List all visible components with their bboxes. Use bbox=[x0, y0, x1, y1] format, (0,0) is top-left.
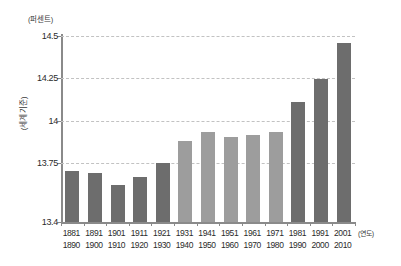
x-axis-tick-mark bbox=[332, 222, 333, 226]
x-axis-tick-label: 18811890 bbox=[60, 227, 83, 251]
x-tick-decade-start: 1921 bbox=[153, 228, 170, 238]
x-tick-decade-start: 1941 bbox=[198, 228, 215, 238]
x-tick-decade-end: 1920 bbox=[128, 239, 151, 251]
x-axis-tick-mark bbox=[61, 222, 62, 226]
x-axis-tick-mark bbox=[219, 222, 220, 226]
y-axis-title: (세계 기준) bbox=[17, 84, 28, 144]
x-axis-tick-mark bbox=[84, 222, 85, 226]
bar-1931-1940[interactable] bbox=[178, 141, 192, 222]
x-axis-tick-label: 19511960 bbox=[218, 227, 241, 251]
x-axis-tick-label: 20012010 bbox=[331, 227, 354, 251]
x-axis-tick-mark bbox=[174, 222, 175, 226]
x-tick-decade-end: 1940 bbox=[173, 239, 196, 251]
x-tick-decade-end: 2010 bbox=[331, 239, 354, 251]
x-tick-decade-end: 1900 bbox=[83, 239, 106, 251]
x-axis-tick-mark bbox=[287, 222, 288, 226]
bar-series bbox=[61, 36, 356, 222]
x-tick-decade-end: 1950 bbox=[196, 239, 219, 251]
x-tick-decade-end: 1910 bbox=[105, 239, 128, 251]
y-axis-tick-label: 14 bbox=[22, 116, 58, 126]
x-axis-tick-mark bbox=[151, 222, 152, 226]
x-axis-tick-mark bbox=[242, 222, 243, 226]
x-tick-decade-start: 1911 bbox=[131, 228, 148, 238]
y-axis-tick-label: 14.5 bbox=[22, 31, 58, 41]
x-axis-tick-mark bbox=[265, 222, 266, 226]
x-axis-tick-label: 19811990 bbox=[286, 227, 309, 251]
x-axis-tick-label: 19711980 bbox=[264, 227, 287, 251]
x-tick-decade-end: 1960 bbox=[218, 239, 241, 251]
x-axis-tick-label: 19011910 bbox=[105, 227, 128, 251]
x-axis-tick-label: 19611970 bbox=[241, 227, 264, 251]
x-tick-decade-start: 1991 bbox=[311, 228, 328, 238]
x-axis-tick-label: 19211930 bbox=[150, 227, 173, 251]
y-axis-tick-label: 13.75 bbox=[22, 158, 58, 168]
bar-1961-1970[interactable] bbox=[246, 135, 260, 222]
bar-1901-1910[interactable] bbox=[111, 185, 125, 222]
x-tick-decade-start: 1891 bbox=[85, 228, 102, 238]
x-tick-decade-start: 1961 bbox=[244, 228, 261, 238]
x-tick-decade-end: 1970 bbox=[241, 239, 264, 251]
bar-1941-1950[interactable] bbox=[201, 132, 215, 222]
bar-1911-1920[interactable] bbox=[133, 177, 147, 222]
x-tick-decade-start: 1901 bbox=[108, 228, 125, 238]
y-axis-tick-label: 13.4 bbox=[22, 217, 58, 227]
x-tick-decade-start: 2001 bbox=[334, 228, 351, 238]
y-axis-unit-label: (퍼센트) bbox=[28, 13, 53, 24]
x-axis-tick-mark bbox=[197, 222, 198, 226]
x-axis-tick-label: 19111920 bbox=[128, 227, 151, 251]
bar-1891-1900[interactable] bbox=[88, 173, 102, 222]
bar-chart: (퍼센트) (세계 기준) 14.514.251413.7513.4 18811… bbox=[0, 0, 401, 266]
bar-1951-1960[interactable] bbox=[224, 137, 238, 222]
x-axis-tick-label: 19912000 bbox=[309, 227, 332, 251]
x-tick-decade-end: 1890 bbox=[60, 239, 83, 251]
x-axis-title: (연도) bbox=[358, 228, 374, 238]
x-axis-tick-mark bbox=[355, 222, 356, 226]
y-axis-tick-label: 14.25 bbox=[22, 73, 58, 83]
x-tick-decade-start: 1951 bbox=[221, 228, 238, 238]
x-tick-decade-start: 1981 bbox=[289, 228, 306, 238]
x-tick-decade-end: 1980 bbox=[264, 239, 287, 251]
x-tick-decade-end: 1930 bbox=[150, 239, 173, 251]
x-axis-tick-mark bbox=[129, 222, 130, 226]
x-axis-tick-label: 19311940 bbox=[173, 227, 196, 251]
bar-1881-1890[interactable] bbox=[65, 171, 79, 222]
x-tick-decade-start: 1971 bbox=[266, 228, 283, 238]
x-axis-tick-mark bbox=[310, 222, 311, 226]
x-axis-tick-label: 19411950 bbox=[196, 227, 219, 251]
x-axis-tick-label: 18911900 bbox=[83, 227, 106, 251]
x-tick-decade-start: 1931 bbox=[176, 228, 193, 238]
x-tick-decade-end: 2000 bbox=[309, 239, 332, 251]
bar-1921-1930[interactable] bbox=[156, 163, 170, 222]
x-tick-decade-end: 1990 bbox=[286, 239, 309, 251]
x-axis-tick-mark bbox=[106, 222, 107, 226]
bar-1991-2000[interactable] bbox=[314, 79, 328, 222]
bar-1971-1980[interactable] bbox=[269, 132, 283, 222]
bar-1981-1990[interactable] bbox=[291, 102, 305, 222]
bar-2001-2010[interactable] bbox=[337, 43, 351, 222]
x-tick-decade-start: 1881 bbox=[63, 228, 80, 238]
